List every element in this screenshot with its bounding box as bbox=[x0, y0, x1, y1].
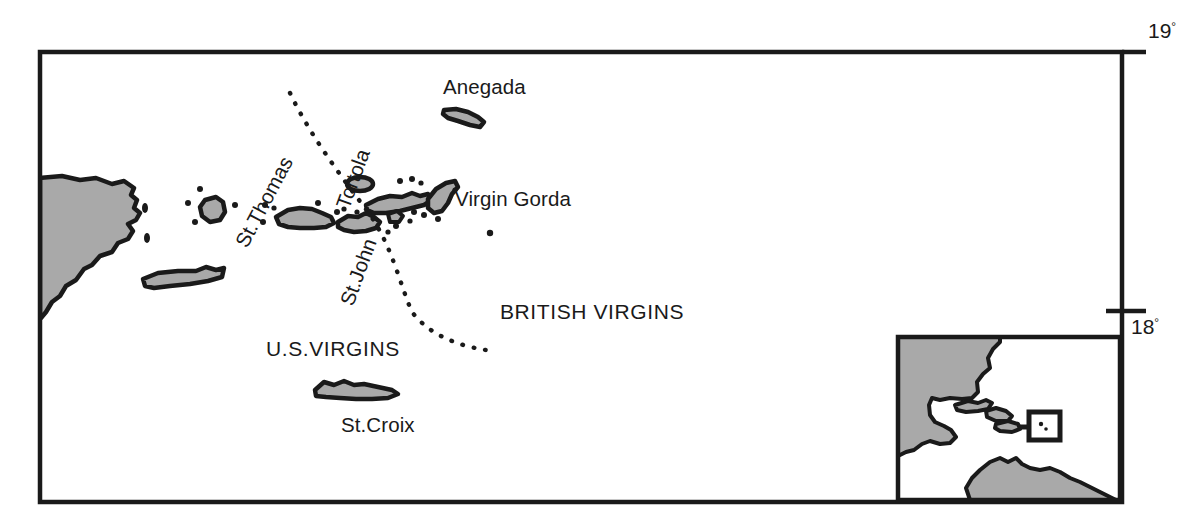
label-st-croix: St.Croix bbox=[341, 413, 415, 436]
islet-culebra-sw bbox=[192, 219, 198, 225]
islet-culebra-n bbox=[197, 186, 203, 192]
islet-bvi-9 bbox=[435, 216, 441, 222]
island-st-john bbox=[338, 213, 380, 232]
map-canvas: 19° 18° Anegada Virgin Gorda St.Thomas T… bbox=[0, 0, 1204, 532]
label-british-virgins: BRITISH VIRGINS bbox=[500, 300, 684, 323]
islet-bvi-5 bbox=[421, 212, 427, 218]
inset-locator-box bbox=[1029, 412, 1060, 440]
inset-island-puerto-rico bbox=[995, 421, 1020, 432]
label-anegada: Anegada bbox=[443, 75, 526, 98]
islet-bvi-3 bbox=[418, 180, 423, 185]
islet-bvi-4 bbox=[411, 209, 417, 215]
islet-bvi-7 bbox=[393, 223, 399, 229]
map-figure: 19° 18° Anegada Virgin Gorda St.Thomas T… bbox=[0, 0, 1204, 532]
islet-st-thomas-e bbox=[334, 209, 340, 215]
islet-culebra-e bbox=[232, 202, 238, 208]
islet-pr-2 bbox=[144, 233, 150, 243]
island-culebra bbox=[200, 197, 225, 222]
islet-bvi-12 bbox=[354, 209, 359, 214]
inset-locator-dot-2 bbox=[1044, 427, 1048, 431]
islet-bvi-8 bbox=[385, 229, 390, 234]
islet-bvi-11 bbox=[487, 230, 493, 236]
islet-bvi-1 bbox=[397, 178, 403, 184]
islet-culebra-nw bbox=[185, 200, 191, 206]
islet-st-thomas-n bbox=[315, 200, 321, 206]
islet-bvi-2 bbox=[409, 176, 415, 182]
islet-pr-1 bbox=[142, 203, 148, 213]
island-peter bbox=[388, 211, 403, 222]
label-virgin-gorda: Virgin Gorda bbox=[455, 187, 571, 210]
islet-bvi-6 bbox=[407, 218, 412, 223]
caribbean-locator-inset bbox=[896, 337, 1120, 500]
label-us-virgins: U.S.VIRGINS bbox=[266, 337, 400, 360]
inset-locator-dot-1 bbox=[1039, 422, 1043, 426]
